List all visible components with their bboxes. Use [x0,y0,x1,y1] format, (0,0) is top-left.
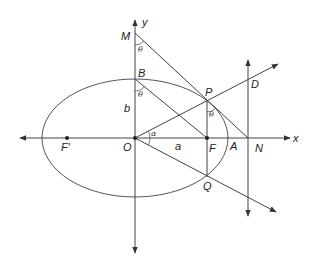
label-a: a [175,140,181,152]
label-Q: Q [203,180,212,192]
label-P: P [205,86,213,98]
label-theta-M: θ [138,45,143,54]
label-F: F [209,142,217,154]
diagram-svg: y x M θ B θ b P θ D α O a F A N F′ Q [0,0,313,265]
label-A: A [229,140,237,152]
label-b: b [124,102,130,114]
angle-arc-alpha-lower [148,138,150,145]
ellipse-diagram: y x M θ B θ b P θ D α O a F A N F′ Q [0,0,313,265]
point-O [133,136,137,140]
tangent-line-MN [135,33,248,138]
label-D: D [251,78,259,90]
point-F [205,136,209,140]
label-alpha: α [151,129,157,138]
label-theta-B: θ [138,90,143,99]
label-N: N [255,142,263,154]
point-F-prime [65,136,69,140]
label-F-prime: F′ [61,141,71,153]
label-x-axis: x [292,132,299,144]
label-M: M [121,30,131,42]
label-theta-P: θ [209,110,214,119]
angle-arc-alpha [148,131,150,138]
label-B: B [138,67,145,79]
label-O: O [123,141,132,153]
label-y-axis: y [141,16,149,28]
line-BF [135,79,207,138]
